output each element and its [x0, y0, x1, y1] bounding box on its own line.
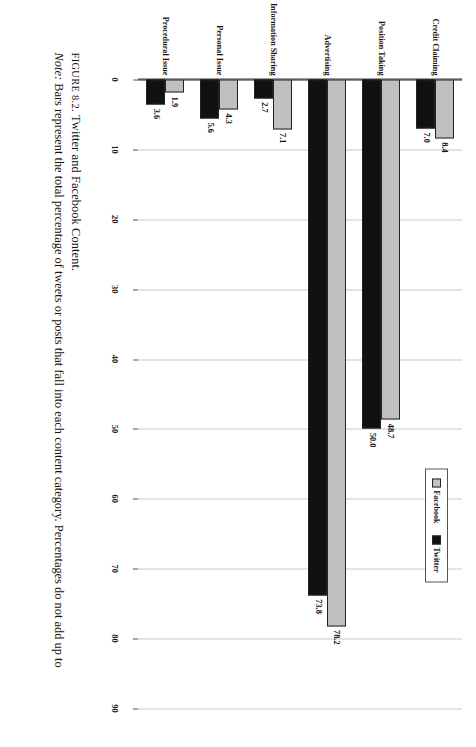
bar-value-label: 50.0	[367, 432, 376, 447]
bar-twitter-credit-claiming	[416, 79, 435, 128]
axis-tick-label: 80	[110, 634, 120, 643]
axis-tick	[133, 568, 138, 569]
axis-tick-label: 30	[110, 284, 120, 293]
axis-tick	[133, 149, 138, 150]
bar-facebook-credit-claiming	[435, 79, 454, 138]
bar-value-label: 1.9	[170, 96, 179, 106]
bar-facebook-position-taking	[381, 79, 400, 419]
scanned-page: 0102030405060708090Credit Claiming8.47.0…	[0, 0, 476, 747]
figure-title: Twitter and Facebook Content.	[69, 115, 83, 271]
caption-title-line: FIGURE 8.2. Twitter and Facebook Content…	[68, 52, 84, 724]
bar-facebook-procedural-issue	[165, 79, 184, 92]
legend-swatch-facebook-icon	[432, 478, 441, 487]
bar-value-label: 5.6	[205, 122, 214, 132]
bar-twitter-information-sharing	[254, 79, 273, 98]
category-label: Credit Claiming	[431, 18, 440, 75]
category-label: Procedural Issue	[161, 16, 170, 75]
bar-value-label: 2.7	[259, 102, 268, 112]
figure-caption: FIGURE 8.2. Twitter and Facebook Content…	[51, 52, 84, 724]
bar-twitter-advertising	[308, 79, 327, 595]
legend-label-facebook: Facebook	[432, 490, 441, 523]
bar-chart: 0102030405060708090Credit Claiming8.47.0…	[94, 52, 466, 712]
gridline	[138, 568, 462, 569]
gridline	[138, 428, 462, 429]
gridline	[138, 219, 462, 220]
category-label: Information Sharing	[269, 2, 278, 75]
note-prefix: Note:	[52, 52, 66, 80]
chart-legend: Facebook Twitter	[425, 468, 448, 582]
axis-tick	[133, 498, 138, 499]
bar-value-label: 7.1	[278, 133, 287, 143]
category-label: Advertising	[323, 34, 332, 75]
bar-value-label: 48.7	[386, 423, 395, 438]
bar-twitter-position-taking	[362, 79, 381, 428]
gridline	[138, 149, 462, 150]
bar-twitter-procedural-issue	[146, 79, 165, 104]
axis-tick-label: 90	[110, 704, 120, 713]
bar-facebook-personal-issue	[219, 79, 238, 109]
gridline	[138, 708, 462, 709]
bar-value-label: 73.8	[313, 599, 322, 614]
caption-note-line: Note: Bars represent the total percentag…	[51, 52, 67, 724]
axis-tick-label: 60	[110, 494, 120, 503]
axis-tick	[133, 428, 138, 429]
axis-tick-label: 20	[110, 215, 120, 224]
axis-tick-label: 10	[110, 145, 120, 154]
axis-tick-label: 50	[110, 424, 120, 433]
gridline	[138, 638, 462, 639]
gridline	[138, 359, 462, 360]
legend-item-facebook: Facebook	[432, 478, 441, 523]
figure-number: FIGURE 8.2.	[70, 52, 81, 112]
gridline	[138, 498, 462, 499]
bar-facebook-advertising	[327, 79, 346, 626]
axis-tick	[133, 79, 138, 80]
figure-container: 0102030405060708090Credit Claiming8.47.0…	[0, 0, 476, 747]
axis-tick	[133, 219, 138, 220]
note-text: Bars represent the total percentage of t…	[52, 80, 66, 668]
bar-value-label: 4.3	[224, 113, 233, 123]
bar-facebook-information-sharing	[273, 79, 292, 129]
axis-tick	[133, 708, 138, 709]
gridline	[138, 289, 462, 290]
bar-value-label: 3.6	[151, 108, 160, 118]
bar-value-label: 78.2	[332, 630, 341, 645]
axis-tick-label: 0	[110, 77, 120, 81]
category-label: Position Taking	[377, 21, 386, 75]
value-axis-line	[138, 79, 462, 80]
bar-twitter-personal-issue	[200, 79, 219, 118]
bar-value-label: 8.4	[440, 142, 449, 152]
axis-tick-label: 40	[110, 354, 120, 363]
legend-item-twitter: Twitter	[432, 535, 441, 572]
axis-tick-label: 70	[110, 564, 120, 573]
axis-tick	[133, 638, 138, 639]
legend-label-twitter: Twitter	[432, 547, 441, 572]
bar-value-label: 7.0	[421, 132, 430, 142]
legend-swatch-twitter-icon	[432, 535, 441, 544]
category-label: Personal Issue	[215, 25, 224, 75]
axis-tick	[133, 359, 138, 360]
plot-area: 0102030405060708090Credit Claiming8.47.0…	[138, 78, 462, 708]
axis-tick	[133, 289, 138, 290]
